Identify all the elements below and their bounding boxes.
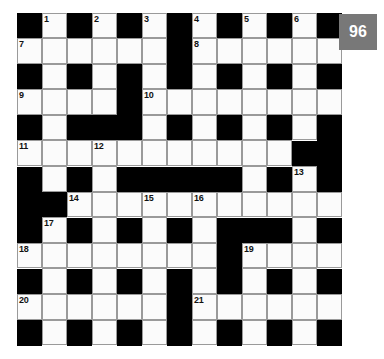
grid-cell[interactable] — [267, 140, 292, 166]
grid-cell[interactable]: 10 — [142, 89, 167, 115]
grid-cell[interactable] — [292, 38, 317, 64]
grid-cell[interactable] — [192, 268, 217, 294]
grid-cell[interactable] — [67, 140, 92, 166]
grid-cell[interactable] — [117, 192, 142, 218]
grid-cell[interactable] — [242, 89, 267, 115]
grid-cell[interactable] — [292, 192, 317, 218]
grid-cell[interactable] — [142, 140, 167, 166]
grid-cell[interactable] — [242, 115, 267, 141]
grid-cell[interactable] — [67, 294, 92, 320]
grid-cell[interactable] — [242, 64, 267, 90]
grid-cell[interactable] — [242, 268, 267, 294]
grid-cell[interactable] — [192, 115, 217, 141]
grid-cell[interactable] — [242, 320, 267, 346]
grid-cell[interactable] — [292, 217, 317, 243]
grid-cell[interactable] — [142, 294, 167, 320]
grid-cell[interactable] — [192, 217, 217, 243]
grid-cell[interactable] — [42, 89, 67, 115]
grid-cell[interactable] — [42, 320, 67, 346]
crossword-grid[interactable]: 123456789101112131415161718192021 — [17, 13, 342, 346]
grid-cell[interactable] — [92, 166, 117, 192]
grid-cell[interactable] — [117, 140, 142, 166]
grid-cell[interactable] — [192, 89, 217, 115]
grid-cell[interactable]: 7 — [17, 38, 42, 64]
grid-cell[interactable] — [92, 64, 117, 90]
grid-cell[interactable]: 9 — [17, 89, 42, 115]
grid-cell[interactable] — [292, 89, 317, 115]
grid-cell[interactable] — [167, 89, 192, 115]
grid-cell[interactable] — [67, 89, 92, 115]
grid-cell[interactable] — [317, 89, 342, 115]
grid-cell[interactable] — [217, 294, 242, 320]
grid-cell[interactable] — [67, 243, 92, 269]
grid-cell[interactable] — [292, 320, 317, 346]
grid-cell[interactable]: 18 — [17, 243, 42, 269]
grid-cell[interactable]: 16 — [192, 192, 217, 218]
grid-cell[interactable]: 20 — [17, 294, 42, 320]
grid-cell[interactable] — [267, 38, 292, 64]
grid-cell[interactable]: 14 — [67, 192, 92, 218]
grid-cell[interactable] — [292, 243, 317, 269]
grid-cell[interactable] — [142, 243, 167, 269]
grid-cell[interactable] — [267, 294, 292, 320]
grid-cell[interactable] — [167, 140, 192, 166]
grid-cell[interactable] — [217, 38, 242, 64]
grid-cell[interactable] — [42, 268, 67, 294]
grid-cell[interactable] — [267, 192, 292, 218]
grid-cell[interactable] — [67, 38, 92, 64]
grid-cell[interactable] — [42, 294, 67, 320]
grid-cell[interactable] — [292, 294, 317, 320]
grid-cell[interactable] — [317, 243, 342, 269]
grid-cell[interactable]: 21 — [192, 294, 217, 320]
grid-cell[interactable] — [292, 115, 317, 141]
grid-cell[interactable] — [42, 166, 67, 192]
grid-cell[interactable] — [217, 192, 242, 218]
grid-cell[interactable] — [317, 294, 342, 320]
grid-cell[interactable] — [92, 38, 117, 64]
grid-cell[interactable] — [92, 89, 117, 115]
grid-cell[interactable] — [292, 268, 317, 294]
grid-cell[interactable] — [92, 294, 117, 320]
grid-cell[interactable] — [42, 140, 67, 166]
grid-cell[interactable] — [217, 89, 242, 115]
grid-cell[interactable] — [117, 38, 142, 64]
grid-cell[interactable] — [192, 243, 217, 269]
grid-cell[interactable] — [142, 64, 167, 90]
grid-cell[interactable] — [192, 140, 217, 166]
grid-cell[interactable] — [117, 294, 142, 320]
grid-cell[interactable]: 2 — [92, 13, 117, 39]
grid-cell[interactable]: 12 — [92, 140, 117, 166]
grid-cell[interactable]: 5 — [242, 13, 267, 39]
grid-cell[interactable] — [142, 268, 167, 294]
grid-cell[interactable] — [317, 38, 342, 64]
grid-cell[interactable] — [142, 320, 167, 346]
grid-cell[interactable]: 1 — [42, 13, 67, 39]
grid-cell[interactable] — [292, 64, 317, 90]
grid-cell[interactable] — [317, 192, 342, 218]
grid-cell[interactable] — [42, 243, 67, 269]
grid-cell[interactable] — [167, 192, 192, 218]
grid-cell[interactable] — [192, 320, 217, 346]
grid-cell[interactable]: 4 — [192, 13, 217, 39]
grid-cell[interactable] — [267, 243, 292, 269]
grid-cell[interactable]: 3 — [142, 13, 167, 39]
grid-cell[interactable] — [242, 192, 267, 218]
grid-cell[interactable] — [92, 268, 117, 294]
grid-cell[interactable] — [267, 89, 292, 115]
grid-cell[interactable] — [117, 243, 142, 269]
grid-cell[interactable] — [42, 64, 67, 90]
grid-cell[interactable] — [142, 217, 167, 243]
grid-cell[interactable] — [242, 140, 267, 166]
grid-cell[interactable] — [92, 243, 117, 269]
grid-cell[interactable] — [242, 166, 267, 192]
grid-cell[interactable] — [242, 38, 267, 64]
grid-cell[interactable] — [192, 64, 217, 90]
grid-cell[interactable] — [92, 192, 117, 218]
grid-cell[interactable]: 13 — [292, 166, 317, 192]
grid-cell[interactable]: 11 — [17, 140, 42, 166]
grid-cell[interactable] — [42, 115, 67, 141]
grid-cell[interactable] — [42, 38, 67, 64]
grid-cell[interactable]: 6 — [292, 13, 317, 39]
grid-cell[interactable]: 19 — [242, 243, 267, 269]
grid-cell[interactable] — [242, 294, 267, 320]
